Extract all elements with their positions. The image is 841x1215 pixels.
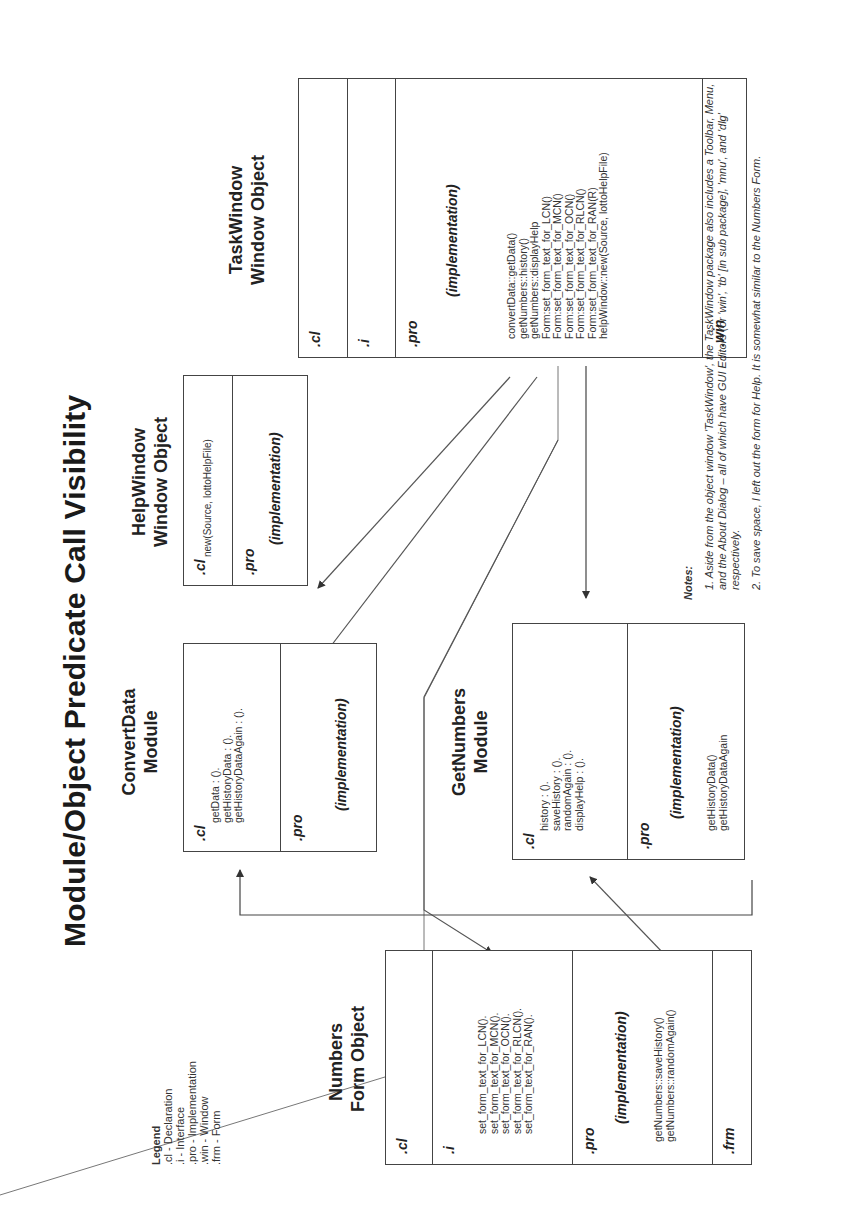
notes-heading: Notes: xyxy=(682,80,695,600)
numbers-form-pro-section: .pro (implementation) getNumbers::saveHi… xyxy=(573,951,713,1164)
note-2: 2. To save space, I left out the form fo… xyxy=(750,80,763,600)
getnumbers-pro-section: .pro (implementation) getHistoryData() g… xyxy=(628,624,746,859)
convertdata-box: .cl getData : (). getHistoryData : (). g… xyxy=(183,643,377,852)
numbers-form-box: .cl .i set_form_text_for_LCN(). set_form… xyxy=(385,950,752,1165)
convertdata-pro-section: .pro (implementation) xyxy=(281,644,378,851)
helpwindow-cl-lines: new(Source, lottoHelpFile) xyxy=(202,439,214,557)
taskwindow-box: .cl .i .pro (implementation) convertData… xyxy=(298,78,747,358)
taskwindow-i-section: .i xyxy=(348,79,396,357)
numbers-form-cl-section: .cl xyxy=(386,951,433,1164)
taskwindow-title: TaskWindow Window Object xyxy=(225,155,269,285)
numbers-form-pro-lines: getNumbers::saveHistory() getNumbers::ra… xyxy=(653,1010,676,1142)
page-title: Module/Object Predicate Call Visibility xyxy=(58,395,92,947)
convertdata-cl-section: .cl getData : (). getHistoryData : (). g… xyxy=(184,644,281,851)
legend-item-win: .win - Window xyxy=(198,1061,210,1165)
taskwindow-pro-lines: convertData::getData() getNumbers::histo… xyxy=(506,152,610,339)
convertdata-title: ConvertData Module xyxy=(118,687,162,797)
getnumbers-cl-section: .cl history : (). saveHistory : (). rand… xyxy=(513,624,628,859)
legend-heading: Legend xyxy=(150,1061,162,1165)
numbers-form-frm-section: .frm xyxy=(713,951,753,1164)
getnumbers-box: .cl history : (). saveHistory : (). rand… xyxy=(512,623,745,860)
convertdata-cl-lines: getData : (). getHistoryData : (). getHi… xyxy=(210,708,245,823)
helpwindow-box: .cl new(Source, lottoHelpFile) .pro (imp… xyxy=(183,375,308,586)
helpwindow-title: HelpWindow Window Object xyxy=(128,417,172,547)
getnumbers-title: GetNumbers Module xyxy=(448,687,492,797)
helpwindow-pro-section: .pro (implementation) xyxy=(233,376,309,585)
numbers-form-i-lines: set_form_text_for_LCN(). set_form_text_f… xyxy=(477,1008,535,1134)
legend: Legend .cl - Declaration .i - Interface … xyxy=(150,1061,222,1165)
getnumbers-pro-lines: getHistoryData() getHistoryDataAgain xyxy=(706,735,729,831)
numbers-form-title: Numbers Form Object xyxy=(325,1012,369,1112)
legend-item-pro: .pro - Implementation xyxy=(186,1061,198,1165)
notes: Notes: 1. Aside from the object window '… xyxy=(682,80,771,600)
taskwindow-cl-section: .cl xyxy=(299,79,348,357)
legend-item-frm: .frm - Form xyxy=(210,1061,222,1165)
note-1: 1. Aside from the object window 'TaskWin… xyxy=(703,80,742,600)
legend-item-cl: .cl - Declaration xyxy=(162,1061,174,1165)
numbers-form-i-section: .i set_form_text_for_LCN(). set_form_tex… xyxy=(433,951,573,1164)
diagram-canvas: Module/Object Predicate Call Visibility … xyxy=(0,0,841,1215)
taskwindow-pro-section: .pro (implementation) convertData::getDa… xyxy=(396,79,703,357)
legend-item-i: .i - Interface xyxy=(174,1061,186,1165)
helpwindow-cl-section: .cl new(Source, lottoHelpFile) xyxy=(184,376,233,585)
getnumbers-cl-lines: history : (). saveHistory : (). randomAg… xyxy=(539,750,585,831)
